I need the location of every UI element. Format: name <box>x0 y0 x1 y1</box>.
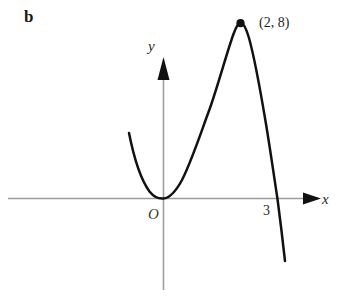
maximum-point-label: (2, 8) <box>259 15 290 31</box>
arrow-right-icon <box>303 193 321 205</box>
y-axis-label: y <box>146 38 155 54</box>
arrow-up-icon <box>158 57 170 80</box>
x-tick-label-3: 3 <box>263 203 270 218</box>
figure-container: b x y O 3 (2, 8) <box>0 0 338 297</box>
x-axis-label: x <box>321 191 329 207</box>
graph-canvas: x y O 3 (2, 8) <box>0 0 338 297</box>
maximum-point-marker <box>236 19 244 27</box>
cubic-curve <box>129 23 285 261</box>
origin-label: O <box>148 206 159 222</box>
